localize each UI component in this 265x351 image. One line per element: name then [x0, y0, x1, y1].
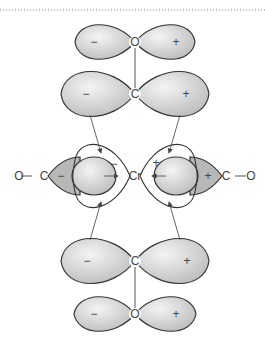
top-c-minus-sign: − [82, 87, 89, 101]
top-carbon-label: C [131, 87, 140, 101]
bottom-oxygen-label: O [130, 307, 139, 321]
bottom-o-plus-sign: + [172, 307, 179, 321]
left-oxygen-label: O [14, 169, 23, 183]
orbital-diagram: O − + C − + Cr O C − − C O + + C − + O −… [0, 0, 265, 351]
left-carbon-label: C [40, 169, 49, 183]
left-d-sign: − [110, 157, 117, 171]
bottom-carbon-label: C [131, 254, 140, 268]
left-lobe-sign: − [57, 169, 64, 183]
top-o-minus-sign: − [90, 35, 97, 49]
bottom-c-minus-sign: − [83, 254, 90, 268]
right-lobe-sign: + [204, 169, 211, 183]
bottom-c-plus-sign: + [183, 254, 190, 268]
chromium-label: Cr [129, 169, 142, 183]
right-oxygen-label: O [246, 169, 255, 183]
right-d-sign: + [152, 156, 159, 170]
right-carbon-label: C [222, 169, 231, 183]
top-o-plus-sign: + [172, 35, 179, 49]
bottom-o-minus-sign: − [90, 307, 97, 321]
top-oxygen-label: O [130, 35, 139, 49]
top-c-plus-sign: + [182, 87, 189, 101]
